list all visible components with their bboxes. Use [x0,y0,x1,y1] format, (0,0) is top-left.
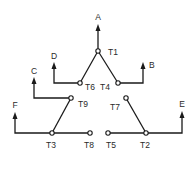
wire-t9-c [34,82,71,98]
terminal-t7 [124,96,128,100]
wire-t1-t6 [80,51,98,83]
arrow-f-icon [13,112,18,119]
terminal-label-t2: T2 [140,140,150,150]
terminal-label-t3: T3 [46,140,56,150]
lead-label-c: C [31,66,37,76]
terminal-label-t4: T4 [100,82,110,92]
terminal-t3 [50,131,54,135]
terminal-label-t5: T5 [106,140,116,150]
arrow-c-icon [32,77,37,84]
terminal-label-t1: T1 [108,47,118,57]
wire-t7-t2 [126,98,146,133]
wire-t3-f [15,117,52,133]
terminal-t8 [88,131,92,135]
wiring-diagram: A B C D E F T1 T2 T3 T4 T5 T6 T7 T8 T9 [0,0,196,175]
terminal-t9 [69,96,73,100]
arrow-e-icon [180,111,185,118]
arrow-b-icon [141,62,146,69]
terminal-label-t8: T8 [84,140,94,150]
wire-t9-t3 [52,98,71,133]
wire-t2-e [146,116,182,133]
arrow-a-icon [96,24,101,31]
terminal-t2 [144,131,148,135]
terminal-t1 [96,49,100,53]
terminal-label-t7: T7 [110,102,120,112]
lead-label-e: E [179,99,185,109]
lead-label-f: F [12,100,17,110]
arrow-d-icon [52,62,57,69]
wire-t6-d [54,67,80,83]
wire-t4-b [118,67,143,83]
terminal-t4 [116,81,120,85]
terminal-t5 [106,131,110,135]
lead-label-b: B [149,60,155,70]
lead-label-d: D [51,51,57,61]
terminal-label-t6: T6 [85,82,95,92]
terminal-label-t9: T9 [78,99,88,109]
terminal-t6 [78,81,82,85]
lead-label-a: A [95,12,101,22]
